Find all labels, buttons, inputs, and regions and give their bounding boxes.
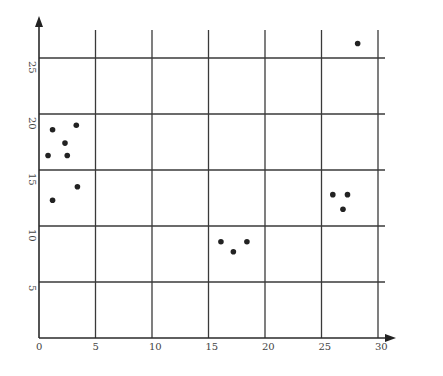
data-point [50, 127, 56, 133]
data-point [64, 153, 70, 159]
x-tick-label: 10 [149, 341, 162, 352]
y-axis-arrow-icon [35, 16, 43, 27]
y-tick-label: 5 [27, 285, 38, 291]
horizontal-gridlines [39, 58, 385, 282]
data-point [244, 239, 250, 245]
vertical-gridlines [96, 30, 379, 338]
data-point [73, 122, 79, 128]
x-tick-label: 0 [36, 341, 42, 352]
data-point [62, 140, 68, 146]
x-tick-label: 30 [375, 341, 388, 352]
x-tick-labels: 051015202530 [36, 341, 388, 352]
x-tick-label: 20 [262, 341, 275, 352]
data-points [45, 41, 360, 255]
x-tick-label: 5 [93, 341, 99, 352]
scatter-chart: 051015202530 510152025 [0, 0, 443, 376]
data-point [355, 41, 361, 47]
data-point [340, 206, 346, 212]
axes [35, 16, 396, 342]
data-point [50, 197, 56, 203]
data-point [75, 184, 81, 190]
x-tick-label: 25 [319, 341, 332, 352]
data-point [218, 239, 224, 245]
y-tick-label: 25 [27, 61, 38, 74]
data-point [45, 153, 51, 159]
y-tick-labels: 510152025 [27, 61, 38, 291]
x-tick-label: 15 [206, 341, 219, 352]
y-tick-label: 15 [27, 173, 38, 186]
y-tick-label: 20 [27, 117, 38, 130]
data-point [345, 192, 351, 198]
data-point [330, 192, 336, 198]
y-tick-label: 10 [27, 229, 38, 242]
data-point [231, 249, 237, 255]
